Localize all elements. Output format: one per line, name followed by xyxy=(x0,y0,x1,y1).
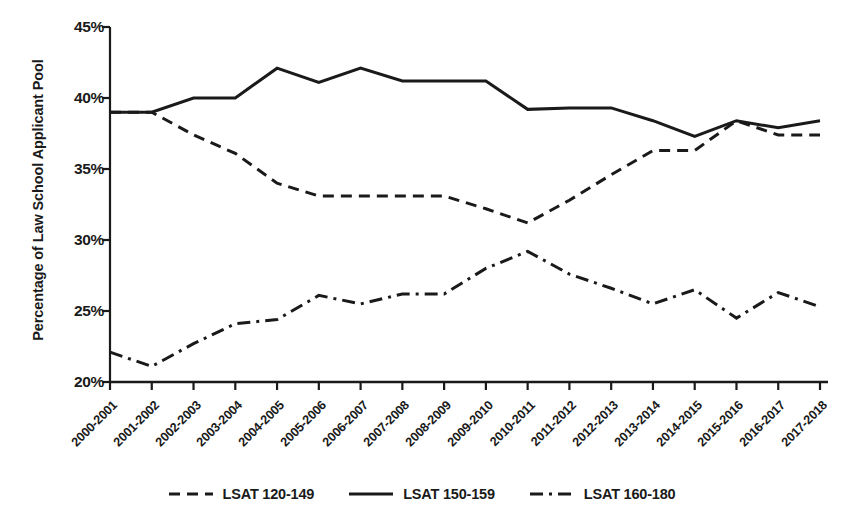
legend-line-swatch-solid xyxy=(348,488,394,500)
legend-line-swatch-dashed xyxy=(168,488,214,500)
x-axis-tick-labels: 2000-20012001-20022002-20032003-20042004… xyxy=(0,0,843,524)
legend-item-1[interactable]: LSAT 120-149 xyxy=(168,486,315,502)
line-chart-figure: Percentage of Law School Applicant Pool … xyxy=(0,0,843,524)
legend-item-3[interactable]: LSAT 160-180 xyxy=(529,486,676,502)
legend-label: LSAT 160-180 xyxy=(584,486,676,502)
legend-line-swatch-dashdot xyxy=(529,488,575,500)
chart-legend: LSAT 120-149LSAT 150-159LSAT 160-180 xyxy=(0,486,843,502)
legend-label: LSAT 150-159 xyxy=(403,486,495,502)
legend-label: LSAT 120-149 xyxy=(223,486,315,502)
legend-item-2[interactable]: LSAT 150-159 xyxy=(348,486,495,502)
